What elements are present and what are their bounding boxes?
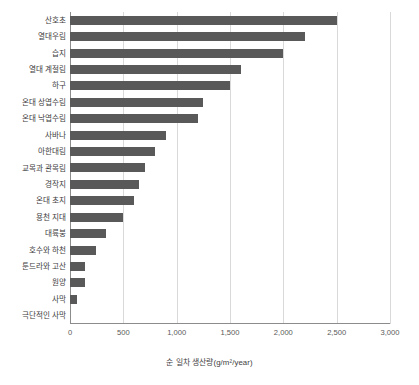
bar	[70, 180, 139, 189]
bar	[70, 295, 77, 304]
x-axis-title: 순 일차 생산량(g/m²/year)	[0, 356, 419, 367]
bar-row	[70, 275, 85, 291]
y-axis-category-label: 하구	[0, 81, 66, 90]
bar	[70, 246, 96, 255]
bar	[70, 114, 198, 123]
bar	[70, 196, 134, 205]
y-axis-category-label: 극단적인 사막	[0, 311, 66, 320]
plot-area	[70, 12, 390, 324]
bar-row	[70, 12, 337, 28]
bar-row	[70, 78, 230, 94]
bar	[70, 32, 305, 41]
x-tick-label: 2,500	[327, 328, 346, 337]
y-axis-category-label: 온대 초지	[0, 196, 66, 205]
bar-row	[70, 45, 283, 61]
x-tick-label: 2,000	[274, 328, 293, 337]
bar	[70, 262, 85, 271]
y-axis-category-labels: 산호초열대우림습지열대 계절림하구온대 상엽수림온대 낙엽수림사바나아한대림교목…	[0, 12, 66, 324]
bar	[70, 213, 123, 222]
bar	[70, 81, 230, 90]
x-tick-label: 1,500	[220, 328, 239, 337]
y-axis-category-label: 열대 계절림	[0, 65, 66, 74]
bar-row	[70, 143, 155, 159]
y-axis-category-label: 교목과 관목림	[0, 164, 66, 173]
x-tick-label: 3,000	[380, 328, 399, 337]
y-axis-category-label: 열대우림	[0, 32, 66, 41]
y-axis-category-label: 사막	[0, 295, 66, 304]
bar-row	[70, 176, 139, 192]
bar-row	[70, 61, 241, 77]
y-axis-category-label: 호수와 하천	[0, 246, 66, 255]
y-axis-category-label: 경작지	[0, 180, 66, 189]
bar	[70, 65, 241, 74]
bar	[70, 229, 106, 238]
bar-row	[70, 291, 77, 307]
x-axis-tick-labels: 05001,0001,5002,0002,5003,000	[70, 328, 390, 342]
y-axis-category-label: 사바나	[0, 131, 66, 140]
bar-row	[70, 160, 145, 176]
y-axis-category-label: 아한대림	[0, 147, 66, 156]
bar	[70, 98, 203, 107]
y-axis-category-label: 온대 상엽수림	[0, 98, 66, 107]
bar	[70, 49, 283, 58]
y-axis-category-label: 산호초	[0, 16, 66, 25]
x-tick-label: 1,000	[167, 328, 186, 337]
bar	[70, 163, 145, 172]
bar	[70, 278, 85, 287]
bar	[70, 16, 337, 25]
y-axis-category-label: 용천 지대	[0, 213, 66, 222]
y-axis-category-label: 툰드라와 고산	[0, 262, 66, 271]
y-axis-category-label: 원양	[0, 278, 66, 287]
chart-container: 산호초열대우림습지열대 계절림하구온대 상엽수림온대 낙엽수림사바나아한대림교목…	[0, 0, 419, 385]
bar-row	[70, 127, 166, 143]
bar-row	[70, 242, 96, 258]
x-tick-label: 500	[117, 328, 130, 337]
bar-row	[70, 94, 203, 110]
bar-row	[70, 193, 134, 209]
gridline-3000	[390, 12, 391, 324]
bar-row	[70, 258, 85, 274]
bar-row	[70, 111, 198, 127]
bar	[70, 131, 166, 140]
y-axis-category-label: 온대 낙엽수림	[0, 114, 66, 123]
y-axis-category-label: 대륙붕	[0, 229, 66, 238]
bar-series	[70, 12, 390, 324]
bar-row	[70, 28, 305, 44]
y-axis-category-label: 습지	[0, 49, 66, 58]
bar-row	[70, 209, 123, 225]
x-tick-label: 0	[68, 328, 72, 337]
bar	[70, 147, 155, 156]
bar-row	[70, 225, 106, 241]
